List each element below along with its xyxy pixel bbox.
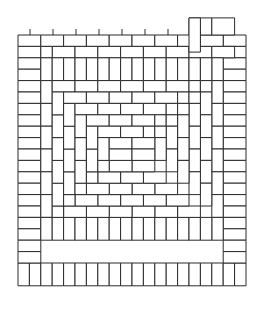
brick-tile-ring-left [41,81,52,104]
brick-tile-top [155,126,166,137]
brick-tile-left-band [18,217,41,228]
brick-tile-top [52,81,75,92]
brick-tile-ring-bottom [189,217,200,240]
brick-tile-top [155,92,178,103]
brick-tile-top [189,81,200,92]
brick-tile-ring-left [41,126,52,149]
brick-tile-bottom [121,195,144,206]
brick-tile-right-band [223,126,246,137]
brick-tile-left-band [18,35,41,46]
brick-tile-center [109,138,132,149]
brick-tile-center [132,149,155,160]
brick-tile-right [166,149,177,172]
brick-tile-top [86,115,109,126]
tiling-figure [0,0,271,315]
brick-tile-top [132,115,155,126]
brick-tile-top [98,103,121,114]
brick-tile-left [75,160,86,183]
brick-tile-right-band [223,92,246,103]
brick-tile-top [109,92,132,103]
brick-tile-right-band [223,103,246,114]
brick-tile-bottom-band [132,263,143,286]
brick-tile-top-band [98,46,121,57]
brick-tile-left [52,92,63,115]
brick-tile-top-band [41,46,52,57]
brick-tile-bottom-band [155,263,166,286]
tile-layer [18,18,246,286]
brick-tile-bottom [75,183,86,194]
brick-tile-left [52,115,63,138]
brick-tile-left [52,160,63,183]
brick-tile-top [143,103,166,114]
brick-tile-right-band [223,160,246,171]
brick-tile-right-band [223,69,246,80]
brick-tile-bottom-band [223,263,234,286]
brick-tile-bottom-band [121,263,132,286]
brick-tile-right-band [223,115,246,126]
brick-tile-right [189,126,200,149]
brick-tile-left-band [18,229,41,240]
brick-tile-bottom-band [212,263,223,286]
brick-tile-top [121,126,144,137]
brick-tile-right-band [223,229,246,240]
brick-tile-left [64,103,75,126]
brick-tile-protrusion [212,18,235,35]
brick-tile-left [86,149,97,172]
brick-tile-bottom [143,172,166,183]
brick-tile-left [64,172,75,195]
brick-tile-ring-left [41,149,52,172]
brick-tile-bottom-band [41,263,52,286]
brick-tile-ring-right [212,172,223,195]
brick-tile-ring-bottom [86,217,97,240]
brick-tile-top [200,81,211,92]
brick-tile-right-band [223,138,246,149]
brick-tile-right-band [223,149,246,160]
brick-tile-ring-top [98,58,109,81]
brick-tile-ring-bottom [178,217,189,240]
brick-tile-right-band [223,206,246,217]
brick-tile-top-band [132,35,155,46]
brick-tile-top [143,81,166,92]
brick-tile-right [189,103,200,126]
brick-tile-ring-bottom [132,217,143,240]
brick-tile-right [178,138,189,161]
brick-tile-ring-bottom [52,217,63,240]
brick-tile-left-band [18,58,41,69]
brick-tile-ring-bottom [143,217,154,240]
brick-tile-ring-left [41,195,52,218]
brick-tile-bottom [64,195,75,206]
brick-tile-left-band [18,81,41,92]
brick-tile-bottom [178,206,201,217]
brick-tile-right-band [223,217,246,228]
brick-tile-right-band [223,195,246,206]
brick-tile-top [166,115,177,126]
brick-tile-bottom [155,206,178,217]
brick-tile-ring-left [41,217,52,240]
brick-tile-top [64,92,87,103]
brick-tile-bottom [75,195,98,206]
brick-tile-ring-bottom [75,217,86,240]
tiling-diagram-canvas [0,0,271,315]
brick-tile-top [121,103,144,114]
brick-tile-bottom [86,183,109,194]
brick-tile-ring-right [212,195,223,218]
brick-tile-ring-top [166,58,177,81]
brick-tile-bottom [121,172,144,183]
brick-tile-left-band [18,46,41,57]
brick-tile-left [64,149,75,172]
brick-tile-ring-bottom [121,217,132,240]
brick-tile-left [75,115,86,138]
brick-tile-top [121,81,144,92]
top-tick-marks [30,29,168,35]
brick-tile-top-band [64,35,87,46]
brick-tile-bottom [86,206,109,217]
brick-tile-right [200,115,211,138]
brick-tile-protrusion [200,18,211,35]
brick-tile-bottom-band [64,263,75,286]
brick-tile-bottom [86,172,97,183]
brick-tile-right [200,160,211,183]
brick-tile-bottom [132,160,155,171]
brick-tile-top [189,92,200,103]
brick-tile-ring-top [178,58,189,81]
brick-tile-ring-top [109,58,120,81]
